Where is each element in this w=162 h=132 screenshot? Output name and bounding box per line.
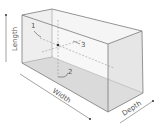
width-arrow-head-icon [89, 118, 91, 120]
box-diagram: 1 2 3 Length Width Depth [0, 0, 162, 132]
callout-1: 1 [31, 22, 35, 30]
callout-3: 3 [81, 41, 85, 49]
callout-2: 2 [68, 68, 72, 76]
intersection-point [57, 44, 60, 47]
depth-arrow-head-icon [152, 100, 154, 102]
length-arrow-head-icon [5, 14, 7, 16]
length-label: Length [11, 27, 19, 51]
